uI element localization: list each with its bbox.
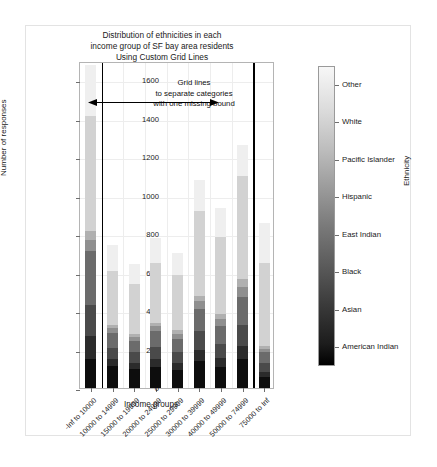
colorbar-title: Ethnicity [402,156,411,186]
bar-segment [85,305,96,336]
bar-segment [259,377,270,388]
bar-segment [194,211,205,296]
bar-segment [194,180,205,211]
figure-panel: Distribution of ethnicities in each inco… [25,25,411,436]
x-axis-tick-mark [178,388,179,392]
colorbar-tick-mark [335,272,339,273]
x-axis-tick-mark [91,388,92,392]
bar-segment [172,352,183,363]
bar-stack[interactable] [129,264,140,388]
bar-segment [150,331,161,346]
colorbar-tick-label: American Indian [342,342,398,351]
bar-segment [150,238,161,263]
bar-segment [129,352,140,363]
bar-segment [215,358,226,367]
bar-segment [85,240,96,251]
bar-segment [172,253,183,274]
colorbar-tick-label: Asian [342,305,362,314]
bar-segment [150,347,161,360]
colorbar-gradient [318,66,335,366]
custom-heavy-gridline [253,63,255,388]
bar-segment [237,279,248,287]
y-axis-tick-mark [76,390,80,391]
bar-segment [215,237,226,314]
x-axis-tick-mark [199,388,200,392]
annotation-double-arrow-icon [88,98,219,107]
colorbar-tick-label: Hispanic [342,192,372,201]
plot-area [79,62,274,389]
bar-segment [150,367,161,388]
bar-segment [259,352,270,363]
bar-segment [107,271,118,325]
bar-segment [237,325,248,346]
colorbar-tick-mark [335,122,339,123]
bar-segment [215,319,226,326]
bar-series-container [80,63,273,388]
colorbar-tick-mark [335,197,339,198]
bar-segment [215,367,226,388]
bar-segment [150,263,161,323]
bar-segment [172,363,183,370]
bar-segment [215,208,226,237]
bar-segment [85,336,96,359]
bar-segment [107,333,118,347]
bar-segment [107,366,118,388]
bar-segment [85,231,96,240]
bar-stack[interactable] [194,180,205,388]
bar-segment [85,251,96,306]
bar-segment [237,297,248,325]
bar-segment [237,346,248,359]
bar-segment [85,116,96,231]
chart-title-line-2: income group of SF bay area residents [26,41,298,52]
bar-segment [237,176,248,280]
bar-segment [129,369,140,388]
bar-segment [259,263,270,346]
bar-stack[interactable] [172,253,183,388]
bar-segment [172,339,183,352]
colorbar-tick-mark [335,160,339,161]
bar-segment [107,245,118,271]
bar-segment [172,370,183,388]
bar-segment [259,223,270,263]
colorbar-tick-mark [335,85,339,86]
bar-stack[interactable] [215,208,226,388]
bar-segment [85,359,96,388]
colorbar-tick-label: Black [342,267,361,276]
x-axis-tick-mark [221,388,222,392]
bar-segment [194,361,205,388]
bar-segment [85,65,96,116]
bar-segment [194,331,205,349]
colorbar-tick-label: Other [342,80,362,89]
bar-segment [237,287,248,297]
x-axis-tick-mark [243,388,244,392]
bar-segment [107,359,118,366]
bar-segment [194,309,205,331]
bar-stack[interactable] [150,238,161,388]
bar-segment [194,350,205,362]
colorbar-tick-mark [335,347,339,348]
bar-segment [237,145,248,176]
bar-stack[interactable] [107,245,118,388]
bar-segment [215,344,226,358]
chart-title-line-1: Distribution of ethnicities in each [26,30,298,41]
bar-stack[interactable] [237,145,248,388]
bar-segment [194,301,205,309]
bar-segment [129,341,140,353]
colorbar-tick-mark [335,310,339,311]
bar-segment [129,284,140,334]
bar-segment [215,326,226,344]
y-axis-label: Number of responses [0,100,8,176]
annotation-line-1: Grid lines [134,78,254,89]
bar-segment [107,348,118,360]
bar-segment [172,275,183,331]
bar-stack[interactable] [259,223,270,388]
bar-segment [237,359,248,388]
colorbar-tick-label: White [342,117,362,126]
x-axis-tick-mark [264,388,265,392]
bar-segment [129,264,140,284]
chart-title: Distribution of ethnicities in each inco… [26,30,298,63]
colorbar-tick-label: East Indian [342,230,381,239]
colorbar-tick-label: Pacific Islander [342,155,395,164]
custom-heavy-gridline [102,63,104,388]
bar-stack[interactable] [85,65,96,388]
